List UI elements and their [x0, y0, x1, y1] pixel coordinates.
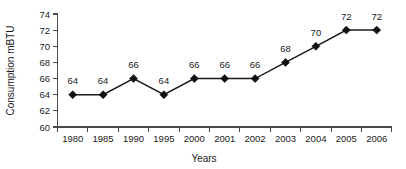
y-tick-label: 60	[39, 122, 50, 133]
data-point-marker	[69, 91, 77, 99]
data-value-label: 68	[280, 43, 291, 54]
data-point-marker	[190, 75, 198, 83]
data-value-label: 66	[189, 59, 200, 70]
chart-plot-area: 74 72 70 68 66 64 62 60 1980 1	[0, 0, 406, 169]
data-point-marker	[221, 75, 229, 83]
data-value-label: 70	[311, 27, 322, 38]
y-tick-label: 62	[39, 105, 50, 116]
y-tick-label: 70	[39, 41, 50, 52]
data-point-marker	[312, 42, 320, 50]
x-tick-label: 2000	[184, 133, 205, 144]
data-point-marker	[130, 75, 138, 83]
data-value-label: 64	[98, 75, 109, 86]
line-chart-figure: 74 72 70 68 66 64 62 60 1980 1	[0, 0, 406, 169]
data-point-marker	[282, 58, 290, 66]
x-axis-tick-labels: 1980 1985 1990 1995 2000 2001 2002 2003 …	[62, 133, 387, 144]
y-tick-label: 68	[39, 57, 50, 68]
x-axis-ticks	[58, 127, 392, 132]
x-axis-title: Years	[191, 153, 216, 164]
x-tick-label: 1990	[123, 133, 144, 144]
data-value-label: 64	[159, 75, 170, 86]
data-point-marker	[342, 26, 350, 34]
data-value-label: 66	[128, 59, 139, 70]
x-tick-label: 1995	[153, 133, 174, 144]
x-tick-label: 1980	[62, 133, 83, 144]
data-point-marker	[251, 75, 259, 83]
data-point-marker	[160, 91, 168, 99]
x-tick-label: 1985	[93, 133, 114, 144]
data-value-label: 66	[250, 59, 261, 70]
y-tick-label: 64	[39, 89, 50, 100]
x-tick-label: 2003	[275, 133, 296, 144]
x-tick-label: 2005	[336, 133, 357, 144]
data-point-marker	[99, 91, 107, 99]
data-value-label: 64	[67, 75, 78, 86]
x-tick-label: 2006	[366, 133, 387, 144]
data-value-label: 66	[219, 59, 230, 70]
y-tick-label: 72	[39, 25, 50, 36]
x-tick-label: 2001	[214, 133, 235, 144]
data-value-label: 72	[371, 11, 382, 22]
y-tick-label: 66	[39, 73, 50, 84]
x-tick-label: 2004	[305, 133, 326, 144]
data-point-marker	[373, 26, 381, 34]
y-axis-tick-labels: 74 72 70 68 66 64 62 60	[39, 9, 50, 133]
x-tick-label: 2002	[245, 133, 266, 144]
y-axis-ticks	[53, 14, 58, 127]
y-tick-label: 74	[39, 9, 50, 20]
data-value-label: 72	[341, 11, 352, 22]
y-axis-title: Consumption mBTU	[5, 25, 16, 115]
